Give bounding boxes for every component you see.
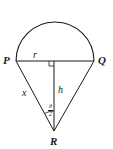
radius-label: r <box>33 50 37 60</box>
point-r-label: R <box>50 136 57 147</box>
semicircle-arc <box>16 22 94 61</box>
side-qr <box>54 61 94 131</box>
height-label: h <box>58 85 63 95</box>
right-angle-mark <box>49 61 54 66</box>
point-p-label: P <box>3 55 10 66</box>
geometry-figure <box>0 0 113 149</box>
diagram-canvas: P Q R r h x θ 2 <box>0 0 113 149</box>
half-angle-label: θ 2 <box>48 103 53 117</box>
side-x-label: x <box>22 88 26 98</box>
angle-numerator: θ <box>49 103 52 109</box>
angle-denominator: 2 <box>49 111 52 117</box>
point-q-label: Q <box>98 55 106 66</box>
